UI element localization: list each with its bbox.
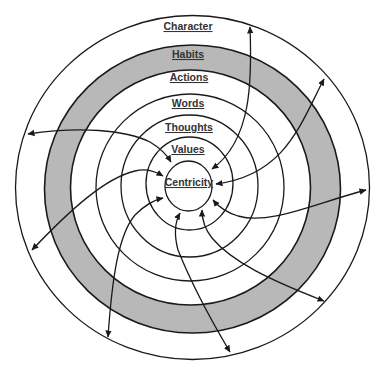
label-centricity: Centricity	[165, 176, 214, 188]
label-words: Words	[172, 97, 205, 109]
label-actions: Actions	[170, 71, 209, 83]
label-values: Values	[171, 143, 204, 155]
label-character: Character	[163, 20, 212, 32]
label-habits: Habits	[172, 48, 204, 60]
label-thoughts: Thoughts	[165, 121, 213, 133]
centricity-concentric-diagram: Character Habits Actions Words Thoughts …	[0, 0, 384, 376]
